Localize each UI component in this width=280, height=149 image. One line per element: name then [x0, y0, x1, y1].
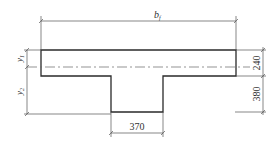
label-bf: bf — [154, 9, 162, 21]
label-web-height: 380 — [251, 87, 262, 102]
t-section-drawing: bf y1 y2 240 380 370 — [0, 0, 280, 149]
label-flange-thickness: 240 — [251, 56, 262, 71]
label-y2: y2 — [14, 88, 25, 96]
dimension-flange-width — [39, 16, 238, 50]
dimension-left — [24, 48, 111, 116]
label-web-width: 370 — [130, 121, 145, 132]
label-y1: y1 — [14, 55, 25, 63]
t-section-outline — [41, 50, 236, 112]
